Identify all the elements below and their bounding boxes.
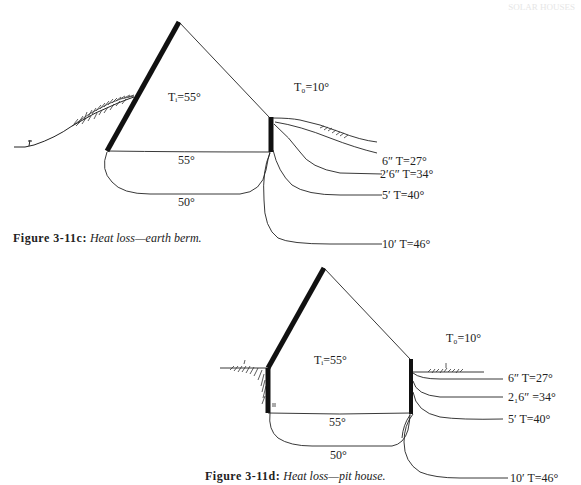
figure-pit-house: Tᵢ=55° T₀=10° 55° 50° 6″ T=27° 2₁6″ =34°… xyxy=(220,268,559,485)
isotherm-10ft-label: 10′ T=46° xyxy=(382,237,431,251)
outside-temp-label: T₀=10° xyxy=(294,80,329,94)
isotherm-2ft6in-label: 2′6″ T=34° xyxy=(380,167,434,181)
isotherm-5ft-label: 5′ T=40° xyxy=(382,188,425,202)
left-vegetation xyxy=(230,360,266,404)
isotherm-6in-label: 6″ T=27° xyxy=(508,371,553,385)
subfloor-temp-label: 50° xyxy=(330,448,347,462)
isotherm-10ft-curve xyxy=(404,414,508,478)
floor-temp-label: 55° xyxy=(329,415,346,429)
floor-line xyxy=(107,151,270,152)
figure-number: Figure 3-11d: xyxy=(205,469,280,483)
isotherm-2ft6in-curve xyxy=(274,124,382,174)
figure-earth-berm: Tᵢ=55° T₀=10° 55° 50° 6″ T=27° 2′6″ T=34… xyxy=(14,22,434,251)
insulated-sloped-wall xyxy=(107,22,179,151)
isotherm-5ft-curve xyxy=(273,150,382,195)
isotherm-2ft6in-curve xyxy=(413,381,503,397)
marker-square xyxy=(272,403,276,407)
grass-tuft-icon xyxy=(28,140,32,146)
figure-caption-pit-house: Figure 3-11d: Heat loss—pit house. xyxy=(205,469,386,484)
isotherm-5ft-label: 5′ T=40° xyxy=(508,412,551,426)
inside-temp-label: Tᵢ=55° xyxy=(314,353,347,367)
figure-title: Heat loss—earth berm. xyxy=(90,231,202,245)
figure-caption-earth-berm: Figure 3-11c: Heat loss—earth berm. xyxy=(13,231,202,246)
isotherm-5ft-curve xyxy=(413,392,503,419)
floor-temp-label: 55° xyxy=(178,153,195,167)
outside-temp-label: T₀=10° xyxy=(446,331,481,345)
inside-temp-label: Tᵢ=55° xyxy=(168,90,201,104)
figure-title: Heat loss—pit house. xyxy=(283,469,385,483)
glazed-roof-line xyxy=(324,268,410,359)
right-vegetation xyxy=(428,363,463,373)
isotherm-6in-curve xyxy=(413,373,503,379)
isotherm-10ft-curve xyxy=(264,153,382,244)
figure-number: Figure 3-11c: xyxy=(13,231,87,245)
isotherm-2ft6in-label: 2₁6″ =34° xyxy=(508,390,556,404)
isotherm-10ft-label: 10′ T=46° xyxy=(510,471,559,485)
floor-line xyxy=(268,413,411,414)
subfloor-temp-label: 50° xyxy=(178,195,195,209)
isotherm-6in-label: 6″ T=27° xyxy=(382,154,427,168)
